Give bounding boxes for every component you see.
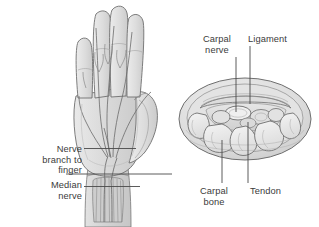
carpal-tunnel-cross-section (179, 78, 311, 160)
tendon-structure-3 (212, 111, 230, 124)
transverse-carpal-ligament (93, 177, 124, 222)
label-median-nerve: Median nerve (6, 180, 82, 201)
label-carpal-nerve: Carpal nerve (190, 34, 244, 55)
carpal-bone-lateral-right (280, 113, 301, 139)
finger-index (93, 11, 111, 98)
anatomy-figure: Nerve branch to finger Median nerve Carp… (0, 0, 319, 227)
hand-illustration (74, 6, 158, 227)
label-nerve-branch-to-finger: Nerve branch to finger (6, 144, 82, 176)
label-ligament: Ligament (248, 34, 310, 45)
finger-little (76, 38, 93, 98)
label-tendon: Tendon (250, 186, 300, 197)
wrist-group (85, 168, 131, 227)
label-carpal-bone: Carpal bone (186, 186, 242, 207)
